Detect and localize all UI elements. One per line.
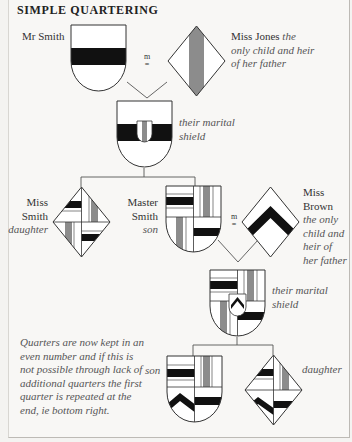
label-miss-brown: Miss Brown the only child and heir of he… [303, 186, 351, 267]
quartering-note: Quarters are now kept in an even number … [20, 336, 144, 417]
lozenge-daughter [245, 355, 302, 425]
shield-master-smith [166, 186, 221, 257]
label-son: son [145, 364, 160, 378]
inescutcheon-jones [137, 121, 152, 143]
label-master-smith: Master Smith son [118, 196, 158, 237]
label-mr-smith: Mr Smith [22, 30, 64, 44]
marriage-symbol-2: m= [229, 213, 239, 229]
label-miss-smith: Miss Smith daughter [6, 196, 48, 237]
marriage-symbol-1: m= [142, 53, 152, 69]
lozenge-miss-brown [242, 187, 299, 257]
lozenge-miss-jones [168, 26, 225, 96]
label-marital-2: their marital shield [272, 284, 328, 311]
shield-marital-2 [210, 270, 265, 341]
label-miss-jones: Miss Jones the only child and heir of he… [231, 30, 341, 71]
label-daughter: daughter [302, 363, 342, 377]
lozenge-miss-smith [53, 187, 110, 257]
shield-mr-smith [71, 25, 126, 95]
inescutcheon-brown [229, 294, 246, 316]
shield-marital-1 [117, 101, 172, 171]
shield-son [167, 356, 222, 426]
label-marital-1: their marital shield [179, 116, 235, 143]
